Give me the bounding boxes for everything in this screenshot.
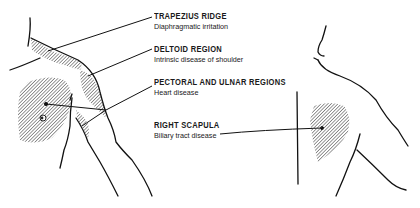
label-subtitle: Biliary tract disease xyxy=(154,132,218,140)
label-title: DELTOID REGION xyxy=(154,46,245,54)
right-scapula-region xyxy=(310,103,349,162)
label-subtitle: Heart disease xyxy=(154,89,283,97)
label-title: RIGHT SCAPULA xyxy=(154,122,220,130)
label-pectoral-ulnar: PECTORAL AND ULNAR REGIONS Heart disease xyxy=(154,79,297,97)
label-subtitle: Intrinsic disease of shoulder xyxy=(154,56,243,64)
deltoid-region xyxy=(80,70,106,118)
label-title: TRAPEZIUS RIDGE xyxy=(154,13,230,21)
ulnar-region xyxy=(76,110,89,138)
label-deltoid-region: DELTOID REGION Intrinsic disease of shou… xyxy=(154,46,253,64)
label-title: PECTORAL AND ULNAR REGIONS xyxy=(154,79,286,87)
pectoral-region xyxy=(18,77,71,142)
label-trapezius-ridge: TRAPEZIUS RIDGE Diaphragmatic irritation xyxy=(154,13,236,31)
referred-pain-diagram: TRAPEZIUS RIDGE Diaphragmatic irritation… xyxy=(0,0,420,208)
label-right-scapula: RIGHT SCAPULA Biliary tract disease xyxy=(154,122,225,140)
label-subtitle: Diaphragmatic irritation xyxy=(154,23,228,31)
